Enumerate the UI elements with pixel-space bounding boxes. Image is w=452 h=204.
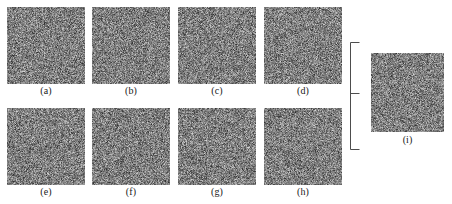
panel-label-b: (b) bbox=[92, 85, 170, 96]
noise-canvas-e bbox=[7, 108, 85, 185]
noise-canvas-h bbox=[264, 108, 342, 185]
panel-label-f: (f) bbox=[92, 186, 170, 197]
noise-image-f bbox=[92, 108, 170, 185]
panel-label-h: (h) bbox=[264, 186, 342, 197]
noise-image-a bbox=[7, 7, 85, 84]
bracket-path bbox=[351, 43, 360, 150]
panel-label-a: (a) bbox=[7, 85, 85, 96]
panel-label-d: (d) bbox=[264, 85, 342, 96]
noise-image-b bbox=[92, 7, 170, 84]
figure-canvas: (a)(b)(c)(d)(e)(f)(g)(h)(i) bbox=[0, 0, 452, 204]
noise-image-c bbox=[178, 7, 256, 84]
noise-image-h bbox=[264, 108, 342, 185]
grouping-bracket bbox=[350, 42, 366, 150]
noise-image-e bbox=[7, 108, 85, 185]
noise-canvas-f bbox=[92, 108, 170, 185]
panel-label-g: (g) bbox=[178, 186, 256, 197]
noise-canvas-d bbox=[264, 7, 342, 84]
noise-image-i bbox=[371, 53, 444, 132]
noise-image-g bbox=[178, 108, 256, 185]
noise-canvas-c bbox=[178, 7, 256, 84]
noise-canvas-b bbox=[92, 7, 170, 84]
noise-image-d bbox=[264, 7, 342, 84]
panel-label-e: (e) bbox=[7, 186, 85, 197]
panel-label-i: (i) bbox=[371, 134, 444, 145]
noise-canvas-g bbox=[178, 108, 256, 185]
noise-canvas-a bbox=[7, 7, 85, 84]
noise-canvas-i bbox=[371, 53, 444, 132]
panel-label-c: (c) bbox=[178, 85, 256, 96]
grouping-bracket-shape bbox=[350, 42, 366, 150]
